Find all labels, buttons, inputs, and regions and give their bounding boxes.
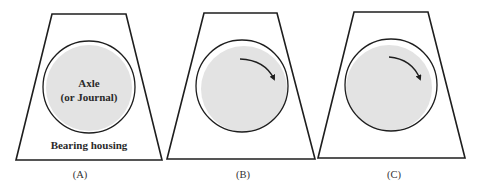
bearing-housing-label: Bearing housing [51,139,128,151]
axle-label-line1: Axle [78,77,100,89]
axle-label-line2: (or Journal) [61,91,118,104]
panel-c: (C) [318,12,465,181]
journal-bearing-diagram: Axle (or Journal) Bearing housing (A) (B… [0,0,486,191]
caption-c: (C) [387,169,402,181]
panel-b: (B) [167,13,315,181]
caption-a: (A) [73,169,88,181]
caption-b: (B) [236,169,251,181]
panel-a: Axle (or Journal) Bearing housing (A) [16,14,162,181]
